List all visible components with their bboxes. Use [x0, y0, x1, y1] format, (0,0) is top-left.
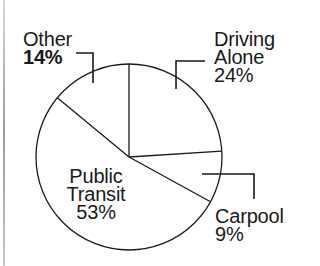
label-carpool: Carpool9%: [215, 207, 284, 243]
label-driving-pct: 24%: [214, 66, 275, 84]
label-public-transit: PublicTransit53%: [56, 167, 136, 221]
label-carpool-pct: 9%: [215, 225, 284, 243]
label-transit-pct: 53%: [56, 203, 136, 221]
label-other-pct: 14%: [23, 48, 72, 66]
label-other: Other14%: [23, 30, 72, 66]
label-driving-alone: DrivingAlone24%: [214, 30, 275, 84]
